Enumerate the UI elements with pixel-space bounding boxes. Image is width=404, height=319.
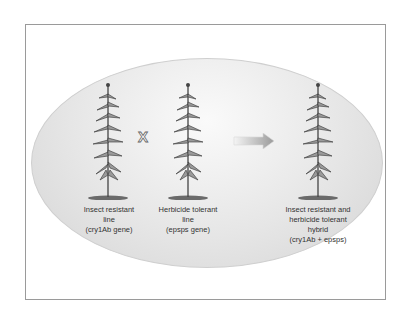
insect-resistant-plant-icon: [88, 80, 128, 200]
label-line: (cry1Ab + epsps): [268, 235, 368, 245]
label-line: herbicide tolerant: [268, 215, 368, 225]
label-line: (cry1Ab gene): [64, 225, 154, 235]
label-line: hybrid: [268, 225, 368, 235]
label-line: line: [142, 215, 234, 225]
label-hybrid: Insect resistant and herbicide tolerant …: [268, 205, 368, 245]
right-arrow-icon: [233, 133, 275, 149]
label-line: Insect resistant and: [268, 205, 368, 215]
label-line: Insect resistant: [64, 205, 154, 215]
label-line: Herbicide tolerant: [142, 205, 234, 215]
hybrid-plant-icon: [298, 80, 338, 200]
label-line: line: [64, 215, 154, 225]
label-insect-resistant: Insect resistant line (cry1Ab gene): [64, 205, 154, 235]
label-line: (epsps gene): [142, 225, 234, 235]
label-herbicide-tolerant: Herbicide tolerant line (epsps gene): [142, 205, 234, 235]
cross-symbol: X: [138, 128, 148, 145]
herbicide-tolerant-plant-icon: [168, 80, 208, 200]
